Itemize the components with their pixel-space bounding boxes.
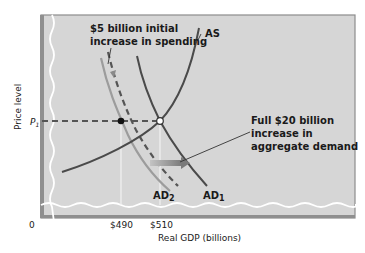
as-label: AS	[205, 28, 220, 39]
equilibrium-dot-510	[157, 118, 164, 125]
y-axis-label: Price level	[13, 84, 23, 130]
x-axis-label: Real GDP (billions)	[158, 233, 241, 243]
annotation-full-line3: aggregate demand	[251, 141, 358, 152]
equilibrium-dot-490	[118, 118, 125, 125]
aggregate-demand-chart: $5 billion initial increase in spending …	[0, 0, 365, 253]
y-axis-bar	[40, 15, 44, 218]
x-tick-0: 0	[29, 220, 35, 230]
annotation-initial-line1: $5 billion initial	[90, 23, 178, 34]
x-axis-bar	[40, 215, 355, 218]
x-tick-510: $510	[150, 220, 173, 230]
annotation-full-line2: increase in	[251, 128, 313, 139]
annotation-initial-line2: increase in spending	[90, 36, 207, 47]
x-tick-490: $490	[110, 220, 133, 230]
p1-tick-label: P1	[30, 117, 39, 128]
annotation-full-line1: Full $20 billion	[251, 115, 334, 126]
full-shift-arrow-body	[150, 160, 182, 166]
